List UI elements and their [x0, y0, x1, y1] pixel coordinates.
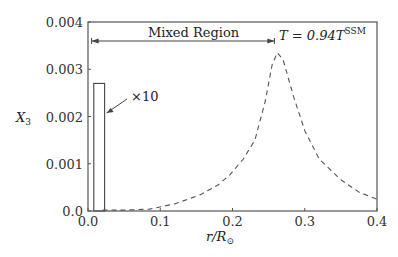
temperature-label: T = 0.94TSSM — [279, 26, 366, 43]
plot-area — [92, 38, 377, 211]
x-tick-label: 0.4 — [367, 214, 388, 229]
x-axis-label-sub: ⊙ — [226, 236, 234, 246]
y-tick-label: 0.004 — [46, 15, 83, 30]
y-tick-label: 0.001 — [46, 157, 83, 172]
inset-bar — [94, 83, 105, 211]
mixed-region-arrowhead-right — [267, 39, 274, 44]
y-tick-label: 0.002 — [46, 110, 83, 125]
chart: 0.00.10.20.30.40.00.0010.0020.0030.004 M… — [0, 0, 398, 257]
y-tick-label: 0.003 — [46, 62, 83, 77]
temperature-label-sup: SSM — [344, 26, 365, 36]
plot-frame — [88, 22, 377, 211]
mixed-region-label: Mixed Region — [148, 25, 240, 40]
axes: 0.00.10.20.30.40.00.0010.0020.0030.004 — [46, 15, 388, 229]
temperature-label-main: T = 0.94T — [279, 28, 346, 43]
series-line — [103, 53, 378, 210]
y-axis-label: X3 — [15, 110, 31, 127]
bar-multiplier-label: ×10 — [131, 89, 158, 104]
x-tick-label: 0.3 — [294, 214, 315, 229]
x-tick-label: 0.2 — [222, 214, 243, 229]
x-axis-label-main: r/R — [206, 229, 227, 244]
y-tick-label: 0.0 — [62, 204, 83, 219]
x-tick-label: 0.1 — [150, 214, 171, 229]
x-axis-label: r/R⊙ — [206, 229, 234, 246]
y-axis-label-sub: 3 — [25, 117, 31, 127]
mixed-region-arrowhead-left — [92, 39, 99, 44]
